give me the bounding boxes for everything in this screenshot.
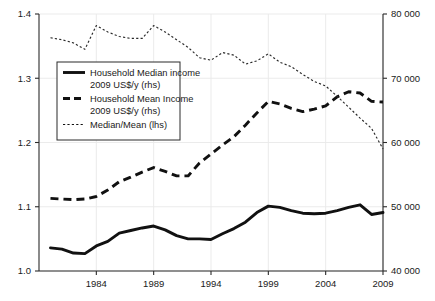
x-tick-label: 1999: [258, 278, 279, 289]
x-tick-label: 2004: [315, 278, 336, 289]
y-tick-label-right: 60 000: [391, 137, 420, 148]
series-line-0: [50, 205, 383, 254]
y-tick-label-right: 50 000: [391, 201, 420, 212]
legend-label-1: Household Mean Income: [90, 94, 193, 104]
y-tick-label-right: 40 000: [391, 265, 420, 276]
legend-sublabel-1: 2009 US$/y (rhs): [90, 106, 160, 116]
y-tick-label-right: 80 000: [391, 8, 420, 19]
legend-sublabel-0: 2009 US$/y (rhs): [90, 80, 160, 90]
income-ratio-line-chart: 1.01.11.21.31.4 40 00050 00060 00070 000…: [0, 0, 435, 301]
y-tick-label-left: 1.1: [18, 201, 31, 212]
x-axis-labels: 198419891994199920042009: [86, 278, 394, 289]
y-tick-label-left: 1.0: [18, 265, 31, 276]
y-axis-right-labels: 40 00050 00060 00070 00080 000: [391, 8, 420, 276]
chart-container: 1.01.11.21.31.4 40 00050 00060 00070 000…: [0, 0, 435, 301]
y-tick-label-left: 1.2: [18, 137, 31, 148]
y-tick-label-left: 1.4: [18, 8, 31, 19]
chart-legend[interactable]: Household Median income2009 US$/y (rhs)H…: [57, 62, 200, 140]
x-tick-label: 2009: [372, 278, 393, 289]
legend-label-2: Median/Mean (lhs): [90, 120, 167, 130]
x-tick-label: 1994: [200, 278, 221, 289]
y-tick-label-left: 1.3: [18, 73, 31, 84]
gridlines: [39, 14, 383, 271]
x-tick-label: 1984: [86, 278, 107, 289]
x-tick-label: 1989: [143, 278, 164, 289]
y-tick-label-right: 70 000: [391, 73, 420, 84]
y-axis-left-labels: 1.01.11.21.31.4: [18, 8, 31, 276]
legend-label-0: Household Median income: [90, 68, 200, 78]
